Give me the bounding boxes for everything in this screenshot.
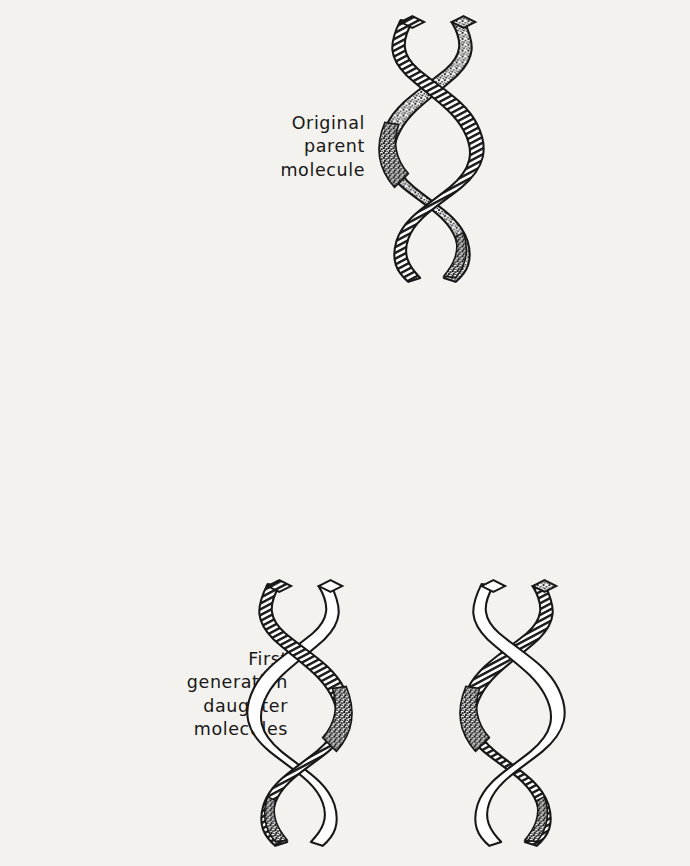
dna-molecule-parent: [371, 10, 493, 290]
label-line-2: parent: [280, 135, 365, 158]
helix-top-tip: [401, 16, 476, 28]
label-line-3: molecule: [280, 159, 365, 182]
generation-row-first: First generation daughter molecules: [0, 285, 690, 570]
strand-back-stippled: [379, 20, 472, 282]
generation-row-second: Second generation daughter molecules: [0, 575, 690, 866]
label-line-1: Original: [280, 112, 365, 135]
helix-svg-parent: [371, 10, 493, 290]
generation-row-parent: Original parent molecule: [0, 0, 690, 300]
replication-diagram: Original parent molecule First g: [0, 0, 690, 866]
label-original-parent-molecule: Original parent molecule: [280, 112, 365, 182]
strand-stipple-band: [379, 122, 409, 187]
